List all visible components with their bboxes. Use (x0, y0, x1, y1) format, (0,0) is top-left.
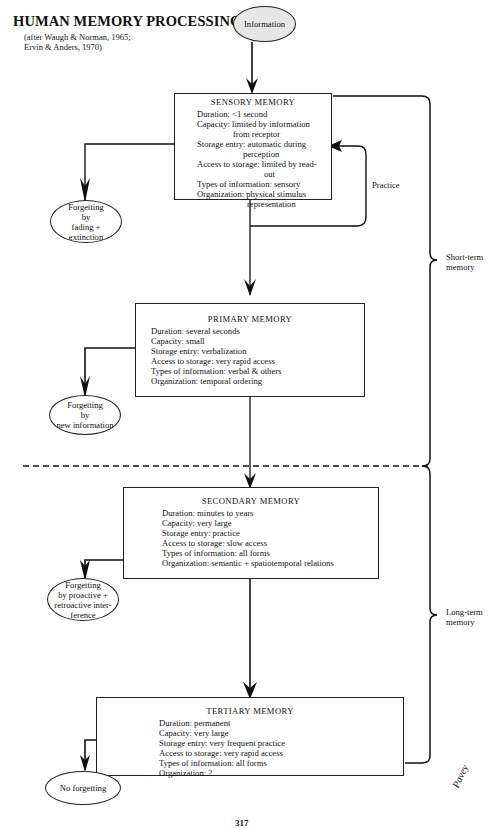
short-term-memory-label: Short-term memory (446, 252, 483, 272)
tertiary-memory-box: TERTIARY MEMORY Duration: permanent Capa… (96, 697, 404, 776)
forgetting-fading-node: Forgetting by fading + extinction (50, 200, 122, 243)
store-title: TERTIARY MEMORY (103, 706, 397, 716)
forgetting-new-information-node: Forgetting by new information (49, 395, 121, 435)
long-term-memory-label: Long-term memory (446, 607, 483, 627)
forgetting-interference-node: Forgetting by proactive + retroactive in… (47, 578, 119, 621)
secondary-memory-box: SECONDARY MEMORY Duration: minutes to ye… (123, 487, 379, 579)
information-node: Information (233, 6, 296, 42)
primary-memory-box: PRIMARY MEMORY Duration: several seconds… (135, 303, 365, 397)
no-forgetting-node: No forgetting (45, 771, 121, 805)
store-title: SENSORY MEMORY (179, 97, 327, 107)
store-title: PRIMARY MEMORY (142, 314, 358, 324)
store-title: SECONDARY MEMORY (130, 496, 372, 506)
sensory-memory-box: SENSORY MEMORY Duration: <1 second Capac… (174, 93, 332, 200)
practice-label: Practice (372, 180, 400, 190)
page-number: 317 (235, 818, 249, 828)
